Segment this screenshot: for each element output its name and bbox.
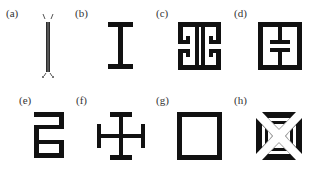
- shape-d-split-stem-square-icon: [258, 22, 302, 70]
- shape-c-hook-square-icon: [178, 22, 221, 70]
- shape-g-square-ring-icon: [177, 112, 222, 160]
- shape-h-diagonal-cut-square-icon: [256, 112, 302, 160]
- shape-f-cross-icon: [97, 112, 145, 160]
- shape-e-meander-icon: [34, 112, 64, 158]
- shape-b-i-beam-icon: [108, 22, 133, 69]
- shape-a-thin-bar-icon: [42, 14, 54, 78]
- shapes-canvas: [0, 0, 317, 173]
